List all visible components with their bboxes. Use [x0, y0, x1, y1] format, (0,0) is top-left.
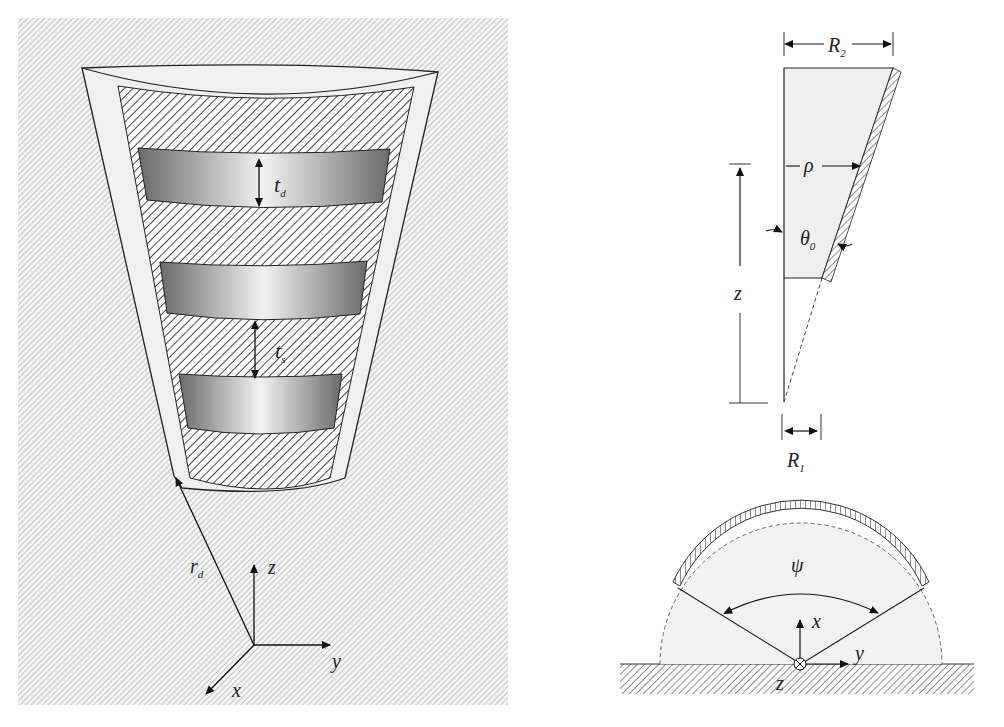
- dielectric-strip-1: [138, 148, 390, 208]
- figure-canvas: td ts rd z y x R2 ρ θ0: [0, 0, 1004, 727]
- axis-x-label: x: [231, 679, 241, 701]
- axis-z-label: z: [775, 672, 784, 694]
- bottom-right-panel: ψ x y z: [620, 500, 974, 694]
- z-label: z: [733, 282, 742, 304]
- axis-y-label: y: [853, 642, 864, 665]
- dashed-extension: [784, 278, 822, 402]
- top-right-panel: R2 ρ θ0 z R1: [729, 32, 901, 474]
- psi-label: ψ: [791, 554, 804, 577]
- axis-x-label: x: [811, 610, 821, 632]
- dielectric-strip-2: [160, 261, 367, 320]
- left-panel: td ts rd z y x: [18, 18, 508, 705]
- R2-label: R2: [827, 34, 846, 59]
- R1-label: R1: [786, 449, 805, 474]
- axis-y-label: y: [330, 650, 341, 673]
- axis-z-label: z: [267, 556, 276, 578]
- rho-label: ρ: [803, 154, 814, 177]
- dielectric-strip-3: [179, 374, 342, 434]
